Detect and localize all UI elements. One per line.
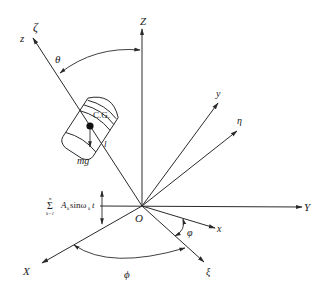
z-zeta-axis — [33, 38, 142, 206]
label-cg: C.G. — [93, 110, 110, 120]
label-length: l — [104, 139, 107, 149]
cg-point — [86, 122, 93, 129]
label-Y: Y — [304, 201, 312, 213]
label-Z: Z — [140, 15, 147, 27]
svg-text:Σ: Σ — [47, 200, 53, 211]
phi-large-arc — [74, 245, 185, 258]
phi-arc — [175, 219, 184, 236]
x-axis — [142, 206, 215, 228]
dynamics-diagram: Z Y X z ζ y η x ξ O θ φ ϕ C.G. l mg n Σ … — [0, 0, 322, 298]
label-zeta: ζ — [33, 20, 39, 34]
label-theta: θ — [55, 53, 61, 65]
excitation-formula: n Σ k=1 A k sinω k t — [46, 196, 95, 216]
label-eta: η — [237, 115, 242, 126]
svg-text:k: k — [88, 206, 91, 211]
svg-text:k=1: k=1 — [46, 211, 54, 216]
label-xi: ξ — [206, 266, 211, 278]
label-X: X — [22, 265, 31, 277]
label-phi-large: ϕ — [124, 268, 130, 280]
svg-text:sinω: sinω — [70, 200, 87, 210]
label-origin: O — [135, 212, 143, 224]
diagram-canvas: Z Y X z ζ y η x ξ O θ φ ϕ C.G. l mg n Σ … — [0, 0, 322, 298]
Y-axis — [100, 206, 302, 207]
label-weight: mg — [77, 155, 89, 166]
theta-arc — [60, 49, 140, 73]
label-z: z — [19, 32, 25, 44]
svg-text:A: A — [60, 200, 67, 210]
label-y: y — [215, 88, 221, 99]
label-phi-small: φ — [187, 227, 193, 238]
X-axis — [42, 206, 142, 263]
label-x: x — [216, 223, 222, 234]
svg-text:t: t — [92, 200, 95, 210]
xi-axis — [142, 206, 204, 262]
